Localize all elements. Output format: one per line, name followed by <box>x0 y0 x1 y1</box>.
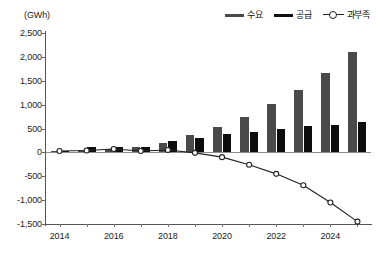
y-axis-tick-mark <box>42 81 46 82</box>
y-axis-tick-label: -500 <box>24 171 42 181</box>
chart-legend: 수요 공급 과부족 <box>225 8 370 22</box>
deficit-line-path <box>60 149 358 222</box>
y-axis-tick-label: 1,000 <box>20 100 42 110</box>
legend-label-supply: 공급 <box>296 11 312 20</box>
y-axis-tick-mark <box>42 33 46 34</box>
legend-item-supply[interactable]: 공급 <box>274 8 312 22</box>
y-axis-tick-mark <box>42 105 46 106</box>
x-axis-tick-mark <box>303 224 304 227</box>
deficit-point-2024: 과부족 2024: -1050 <box>328 200 333 205</box>
deficit-point-2020: 과부족 2020: -100 <box>220 155 225 160</box>
chart-container: 수요 공급 과부족 (GWh) 2,5002,0001,5001,0005000… <box>0 0 376 255</box>
x-axis-tick-mark <box>114 224 115 227</box>
y-axis-tick-mark <box>42 129 46 130</box>
x-axis-tick-label: 2016 <box>104 231 124 241</box>
y-axis-tick-mark <box>42 200 46 201</box>
x-axis-tick-mark <box>195 224 196 227</box>
x-axis-line <box>45 224 372 225</box>
y-axis-tick-mark <box>42 176 46 177</box>
y-axis-tick-label: 2,000 <box>20 52 42 62</box>
x-axis-tick-label: 2020 <box>212 231 232 241</box>
y-axis-tick-label: -1,000 <box>17 195 42 205</box>
plot-area: 과부족 2014: 30과부족 2015: 40과부족 2016: 70과부족 … <box>46 33 371 224</box>
x-axis-tick-label: 2022 <box>266 231 286 241</box>
y-axis-tick-label: 1,500 <box>20 76 42 86</box>
legend-swatch-supply-icon <box>274 14 293 17</box>
legend-item-demand[interactable]: 수요 <box>225 8 263 22</box>
x-axis-tick-mark <box>60 224 61 227</box>
deficit-point-2019: 과부족 2019: -10 <box>192 150 197 155</box>
deficit-point-2023: 과부족 2023: -690 <box>301 183 306 188</box>
deficit-point-2018: 과부족 2018: 50 <box>165 147 170 152</box>
y-axis-tick-label: -1,500 <box>17 219 42 229</box>
y-axis-tick-mark <box>42 152 46 153</box>
x-axis-tick-mark <box>330 224 331 227</box>
legend-label-deficit: 과부족 <box>347 11 370 20</box>
deficit-point-2017: 과부족 2017: 30 <box>138 148 143 153</box>
x-axis-tick-label: 2018 <box>158 231 178 241</box>
legend-label-demand: 수요 <box>247 11 263 20</box>
deficit-line-series: 과부족 2014: 30과부족 2015: 40과부족 2016: 70과부족 … <box>46 33 371 224</box>
y-axis-tick-mark <box>42 57 46 58</box>
legend-swatch-demand-icon <box>225 14 244 17</box>
x-axis-tick-mark <box>222 224 223 227</box>
y-axis-tick-labels: 2,5002,0001,5001,0005000-500-1,000-1,500 <box>0 0 42 255</box>
deficit-point-2015: 과부족 2015: 40 <box>84 148 89 153</box>
x-axis-tick-label: 2014 <box>50 231 70 241</box>
x-axis-tick-mark <box>87 224 88 227</box>
deficit-point-2025: 과부족 2025: -1450 <box>355 219 360 224</box>
y-axis-tick-mark <box>42 224 46 225</box>
deficit-point-2021: 과부족 2021: -260 <box>247 162 252 167</box>
y-axis-tick-label: 500 <box>27 124 42 134</box>
deficit-point-2022: 과부족 2022: -450 <box>274 171 279 176</box>
x-axis-tick-label: 2024 <box>321 231 341 241</box>
deficit-point-2014: 과부족 2014: 30 <box>57 148 62 153</box>
x-axis-tick-mark <box>141 224 142 227</box>
y-axis-tick-label: 2,500 <box>20 28 42 38</box>
x-axis-tick-mark <box>249 224 250 227</box>
deficit-point-2016: 과부족 2016: 70 <box>111 147 116 152</box>
x-axis-tick-mark <box>168 224 169 227</box>
x-axis-tick-mark <box>276 224 277 227</box>
legend-circle-marker-icon <box>323 11 344 19</box>
legend-item-deficit[interactable]: 과부족 <box>323 8 370 22</box>
